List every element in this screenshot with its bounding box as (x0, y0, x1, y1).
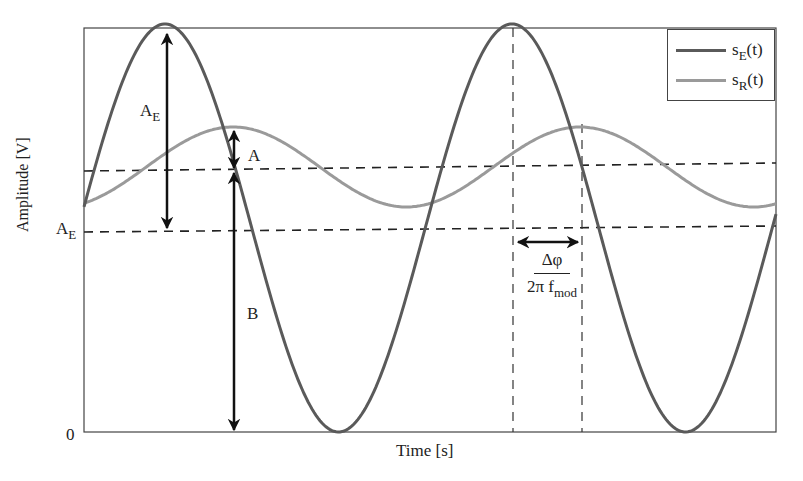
ae-axis-label-sub: E (68, 227, 76, 242)
legend-swatch-emitted (676, 49, 726, 52)
legend-swatch-received (676, 79, 726, 82)
fraction-numerator: Δφ (534, 250, 571, 274)
a-arrow-label: A (248, 147, 260, 164)
x-axis-label: Time [s] (396, 442, 453, 459)
legend-label-received: sR(t) (732, 70, 763, 90)
b-arrow-label: B (247, 305, 258, 322)
ae-axis-label: AE (56, 220, 76, 237)
ae-label-main: A (140, 101, 152, 120)
legend: sE(t) sR(t) (667, 29, 775, 101)
legend-label-emitted: sE(t) (732, 40, 763, 60)
fraction-denominator-main: 2π f (527, 277, 554, 296)
received-signal-curve (84, 127, 776, 207)
y-tick-zero: 0 (66, 426, 75, 443)
y-axis-label: Amplitude [V] (14, 137, 32, 232)
ae-arrow-label: AE (140, 102, 160, 119)
legend-item-received: sR(t) (676, 70, 763, 90)
dashed-line-emitted-center (84, 226, 776, 232)
legend-item-emitted: sE(t) (676, 40, 763, 60)
ae-axis-label-main: A (56, 219, 68, 238)
fraction-denominator: 2π fmod (516, 277, 588, 297)
ae-label-sub: E (152, 109, 160, 124)
fraction-denominator-sub: mod (554, 285, 577, 300)
phase-delay-fraction: Δφ 2π fmod (516, 250, 588, 297)
